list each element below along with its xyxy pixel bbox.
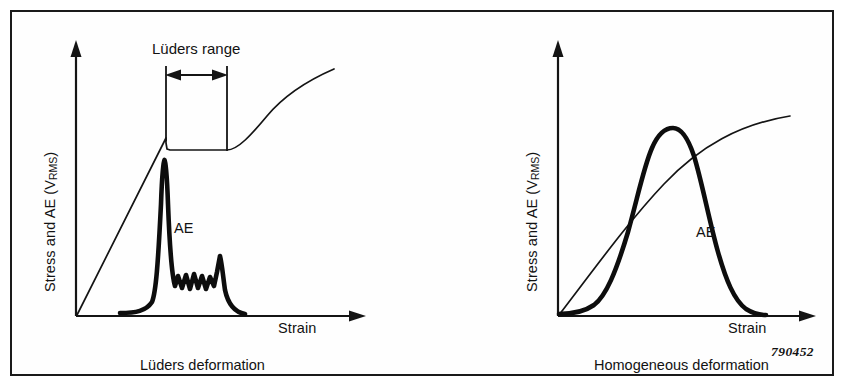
stress-curve-homogeneous xyxy=(559,116,790,315)
x-axis-arrowhead xyxy=(349,311,366,322)
luders-range-arrowhead-left xyxy=(165,70,181,81)
y-axis-label-luders: Stress and AE (VRMS) xyxy=(42,152,59,292)
caption-homogeneous-deformation: Homogeneous deformation xyxy=(594,357,769,373)
chart-panel-luders: Stress and AE (VRMS) Strain AE Lüders ra… xyxy=(24,24,414,368)
y-axis-arrowhead xyxy=(71,40,82,57)
figure-border-frame: Stress and AE (VRMS) Strain AE Lüders ra… xyxy=(10,10,834,376)
luders-chart-svg xyxy=(24,24,414,368)
luders-range-label: Lüders range xyxy=(152,40,240,57)
ae-curve-tag-homogeneous: AE xyxy=(696,224,715,240)
y-axis-label-homogeneous: Stress and AE (VRMS) xyxy=(524,152,541,292)
caption-luders-deformation: Lüders deformation xyxy=(140,357,265,373)
ae-curve-luders xyxy=(120,160,245,314)
figure-root: Stress and AE (VRMS) Strain AE Lüders ra… xyxy=(0,0,856,389)
x-axis-arrowhead xyxy=(799,311,816,322)
y-axis-arrowhead xyxy=(553,40,564,57)
chart-panel-homogeneous: Stress and AE (VRMS) Strain AE xyxy=(432,24,822,368)
x-axis-label-luders: Strain xyxy=(278,320,316,336)
ae-curve-tag-luders: AE xyxy=(174,220,193,236)
stress-curve-luders xyxy=(77,69,334,315)
x-axis-label-homogeneous: Strain xyxy=(728,320,766,336)
figure-id-label: 790452 xyxy=(771,344,814,360)
luders-range-arrowhead-right xyxy=(212,70,228,81)
homogeneous-chart-svg xyxy=(432,24,822,368)
ae-curve-homogeneous xyxy=(559,128,766,315)
